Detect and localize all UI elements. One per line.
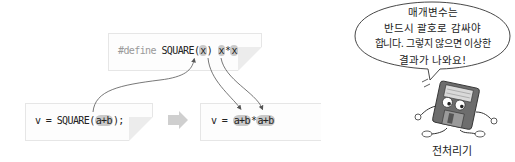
macro-name: SQUARE bbox=[161, 45, 194, 56]
call-code: v = SQUARE(a+b); bbox=[35, 115, 124, 126]
expanded-right: a+b bbox=[256, 115, 274, 126]
macro-param: x bbox=[199, 45, 206, 56]
speech-bubble-text: 매개변수는 반드시 괄호로 감싸야 합니다. 그렇지 않으면 이상한 결과가 나… bbox=[355, 4, 510, 68]
expanded-code: v = a+b*a+b bbox=[211, 115, 275, 126]
page-fold-icon bbox=[238, 47, 262, 71]
call-arg: a+b bbox=[95, 115, 113, 126]
page-fold-icon bbox=[129, 117, 153, 141]
define-directive: #define bbox=[118, 45, 156, 56]
call-suffix: ); bbox=[113, 115, 124, 126]
macro-body-right: x bbox=[230, 45, 237, 56]
expanded-left: a+b bbox=[233, 115, 251, 126]
macro-body-left: x bbox=[218, 45, 225, 56]
define-code: #define SQUARE(x) x*x bbox=[118, 45, 238, 56]
character-label: 전처리기 bbox=[432, 142, 472, 158]
call-prefix: v = SQUARE( bbox=[35, 115, 95, 126]
expanded-prefix: v = bbox=[211, 115, 233, 126]
